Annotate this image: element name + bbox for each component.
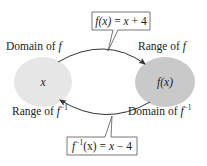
range-of-f-label: Range of f	[138, 40, 188, 53]
diagram-canvas: x f(x) f(x) = x + 4 f−1(x) = x − 4 Domai…	[0, 0, 207, 166]
bottom-formula-callout: f−1(x) = x − 4	[67, 116, 137, 155]
forward-arrow	[58, 49, 145, 64]
domain-of-f-label: Domain of f	[6, 40, 63, 53]
right-set-label: f(x)	[157, 76, 173, 89]
function-inverse-diagram: x f(x) f(x) = x + 4 f−1(x) = x − 4 Domai…	[0, 0, 207, 166]
domain-of-f-inverse-label: Domain of f−1	[128, 103, 192, 118]
top-formula-text: f(x) = x + 4	[95, 15, 147, 28]
range-of-f-inverse-label: Range of f−1	[12, 103, 68, 118]
left-set-label: x	[39, 76, 46, 88]
